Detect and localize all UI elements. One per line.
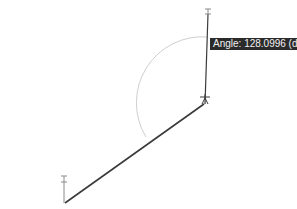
angle-tooltip: Angle: 128.0996 (d) — [210, 38, 297, 50]
endpoint-marker-top-icon[interactable] — [205, 9, 211, 14]
cad-drawing-canvas[interactable]: Angle: 128.0996 (d) — [0, 0, 297, 209]
segment-top — [205, 14, 208, 104]
drawing-svg — [0, 0, 297, 209]
endpoint-marker-left-icon[interactable] — [61, 176, 67, 182]
angle-arc — [136, 37, 208, 137]
segment-bottom — [65, 104, 204, 203]
